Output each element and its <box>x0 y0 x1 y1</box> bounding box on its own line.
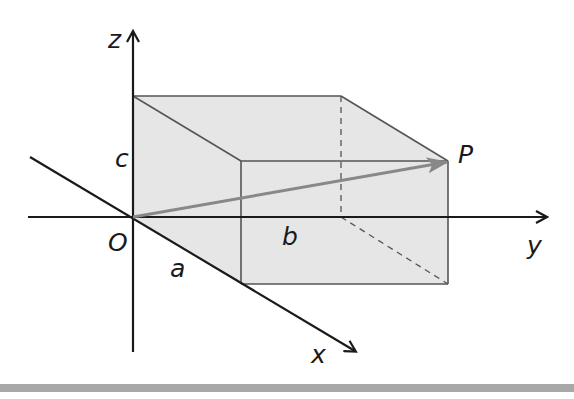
edge-a-label: a <box>170 254 185 283</box>
origin-label: O <box>108 228 128 257</box>
edge-b-label: b <box>282 222 298 251</box>
edge-c-label: c <box>115 144 129 173</box>
y-axis-label: y <box>526 231 543 260</box>
z-axis-label: z <box>107 25 122 54</box>
x-axis-label: x <box>310 340 326 369</box>
coordinate-diagram: z y x O P a b c <box>0 0 574 399</box>
point-p-label: P <box>458 140 474 169</box>
footer-divider-bar <box>0 384 574 392</box>
